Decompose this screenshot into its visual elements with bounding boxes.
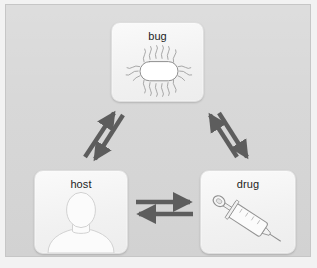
bacterium-icon (112, 44, 203, 98)
node-host-label: host (35, 178, 127, 190)
edge-bug-drug (210, 113, 247, 157)
node-bug[interactable]: bug (111, 22, 204, 102)
node-drug[interactable]: drug (200, 170, 296, 254)
diagram-canvas: bug (0, 0, 317, 268)
diagram-panel: bug (5, 4, 311, 257)
edge-host-bug (85, 113, 123, 159)
edge-host-drug (136, 202, 193, 214)
node-host[interactable]: host (34, 170, 128, 254)
syringe-icon (201, 189, 295, 251)
node-bug-label: bug (112, 30, 203, 42)
person-silhouette-icon (35, 191, 127, 253)
